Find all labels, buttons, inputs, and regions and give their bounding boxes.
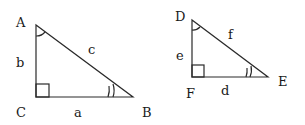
side-label-b: b — [16, 55, 24, 70]
side-label-d: d — [221, 83, 229, 98]
side-label-a: a — [74, 105, 82, 120]
triangle-abc-outline — [36, 25, 133, 97]
side-label-e: e — [176, 48, 184, 63]
angle-arc-e-outer — [250, 66, 251, 77]
right-angle-marker-f — [192, 65, 204, 77]
vertex-label-f: F — [186, 86, 195, 101]
angle-arc-e-inner — [246, 68, 247, 77]
angle-arc-a — [36, 32, 45, 36]
triangle-def: D F E e d f — [175, 9, 288, 101]
vertex-label-b: B — [142, 105, 152, 120]
vertex-label-a: A — [15, 15, 26, 30]
vertex-label-d: D — [175, 9, 185, 24]
vertex-label-e: E — [278, 74, 288, 89]
right-angle-marker-c — [36, 84, 49, 97]
side-label-c: c — [88, 42, 95, 57]
similar-triangles-diagram: A C B b a c D F E e d f — [0, 0, 305, 125]
triangle-abc: A C B b a c — [15, 15, 152, 120]
side-label-f: f — [228, 27, 234, 42]
angle-arc-b-inner — [108, 86, 109, 97]
angle-arc-d — [192, 27, 200, 30]
vertex-label-c: C — [16, 105, 26, 120]
angle-arc-b-outer — [113, 84, 114, 97]
